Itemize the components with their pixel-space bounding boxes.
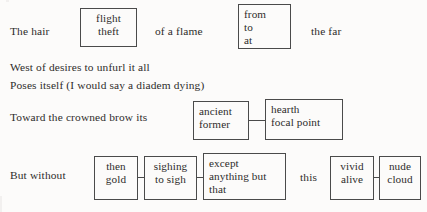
box-vivid-alive-line2: alive [335,173,369,186]
connector-ancient-to-hearth [249,120,265,121]
box-ancient-former-line2: former [199,118,244,131]
box-then-gold-line1: then [99,160,133,173]
box-sighing-to-sigh-line1: sighing [149,160,192,173]
scan-edge-artifact-top [6,0,9,2]
box-from-to-at-line3: at [244,34,286,47]
line1-segment-of-a-flame: of a flame [155,24,203,38]
box-hearth-focal-point-line1: hearth [271,103,338,116]
box-except-anything-but-that[interactable]: except anything but that [203,153,286,200]
box-from-to-at-line2: to [244,21,286,34]
box-then-gold-line2: gold [99,173,133,186]
box-vivid-alive[interactable]: vivid alive [330,156,374,200]
line5-segment-but-without: But without [10,168,66,182]
box-nude-cloud-line2: cloud [384,173,416,186]
line5-segment-this: this [300,170,317,184]
box-hearth-focal-point-line2: focal point [271,116,338,129]
line1-segment-the-far: the far [311,24,341,38]
box-except-line2: anything but [209,170,281,183]
box-flight-theft[interactable]: flight theft [80,8,137,47]
box-sighing-to-sigh[interactable]: sighing to sigh [144,156,197,200]
box-then-gold[interactable]: then gold [94,156,138,200]
box-nude-cloud-line1: nude [384,160,416,173]
box-hearth-focal-point[interactable]: hearth focal point [265,99,343,140]
box-except-line1: except [209,157,281,170]
box-ancient-former-line1: ancient [199,105,244,118]
poem-page: The hair flight theft of a flame from to… [0,0,427,212]
box-flight-theft-line2: theft [85,25,132,38]
box-flight-theft-line1: flight [85,12,132,25]
box-ancient-former[interactable]: ancient former [193,101,249,140]
box-from-to-at[interactable]: from to at [238,4,291,49]
scan-edge-artifact-left [0,196,2,212]
box-except-line3: that [209,183,281,196]
box-vivid-alive-line1: vivid [335,160,369,173]
line2-west-of-desires: West of desires to unfurl it all [10,60,150,74]
line1-segment-the-hair: The hair [10,24,49,38]
box-from-to-at-line1: from [244,8,286,21]
box-sighing-to-sigh-line2: to sigh [149,173,192,186]
line3-poses-itself: Poses itself (I would say a diadem dying… [10,78,204,92]
line4-segment-toward-the-crowned-brow-its: Toward the crowned brow its [10,110,147,124]
box-nude-cloud[interactable]: nude cloud [379,156,421,200]
